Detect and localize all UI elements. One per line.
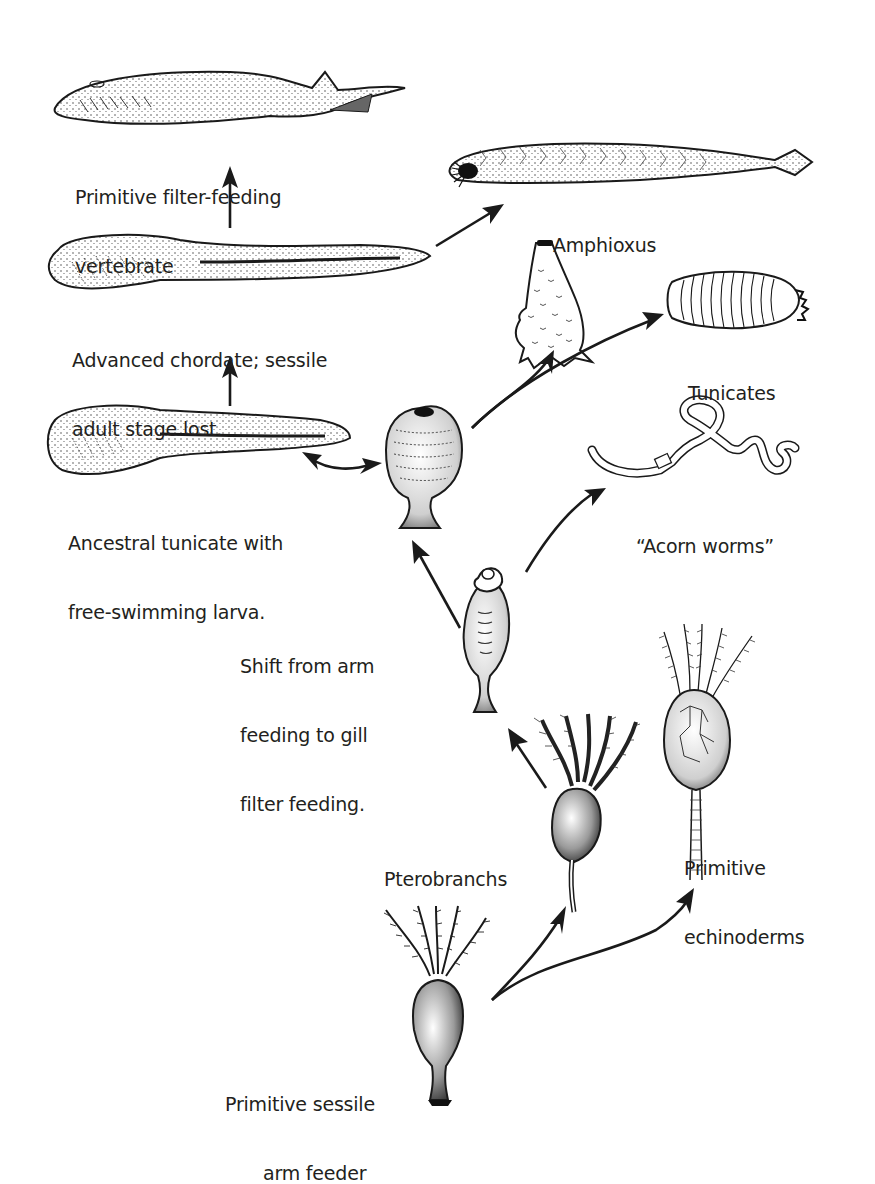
label-primitive-echinoderms: Primitive echinoderms xyxy=(684,811,805,972)
label-acorn-worms: “Acorn worms” xyxy=(636,489,774,581)
arrow-to-acorn-worms xyxy=(526,488,606,572)
arrow-to-amphioxus xyxy=(436,204,504,246)
label-gill-filter-feeder: Shift from arm feeding to gill filter fe… xyxy=(240,609,374,839)
label-pterobranchs: Pterobranchs xyxy=(384,822,507,914)
sessile-arm-feeder-drawing xyxy=(384,906,490,1106)
arrow-to-ancestral-tunicate xyxy=(412,540,460,628)
label-advanced-chordate: Advanced chordate; sessile adult stage l… xyxy=(72,303,327,464)
tunicates-drawing xyxy=(668,272,809,329)
label-tunicates: Tunicates xyxy=(688,336,775,428)
arrow-to-gill-feeder xyxy=(508,728,546,788)
pterobranch-drawing xyxy=(534,714,640,912)
ancestral-tunicate-adult-drawing xyxy=(386,406,462,528)
label-primitive-vertebrate: Primitive filter-feeding vertebrate xyxy=(75,140,281,301)
arrows-from-sessile-arm-feeder xyxy=(492,888,694,1000)
label-sessile-arm-feeder: Primitive sessile arm feeder xyxy=(225,1047,375,1184)
gill-filter-feeder-drawing xyxy=(464,568,509,712)
label-amphioxus: Amphioxus xyxy=(553,188,656,280)
primitive-vertebrate-drawing xyxy=(55,72,405,124)
amphioxus-drawing xyxy=(450,144,812,187)
